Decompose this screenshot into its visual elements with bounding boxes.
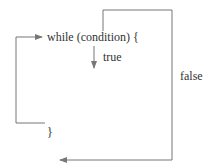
- loop-back-edge: [16, 37, 45, 123]
- while-loop-diagram: while (condition) { true false }: [0, 0, 210, 168]
- false-label: false: [180, 70, 203, 82]
- true-label: true: [103, 51, 122, 63]
- closing-brace-text: }: [47, 126, 53, 138]
- diagram-lines: [0, 0, 210, 168]
- while-header-text: while (condition) {: [47, 31, 139, 43]
